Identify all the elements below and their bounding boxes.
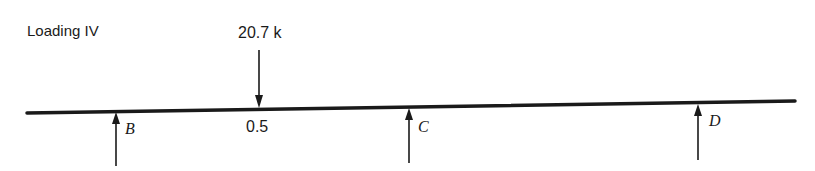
- point-load-value: 20.7 k: [238, 24, 282, 42]
- beam-loading-diagram: Loading IV 20.7 k 0.5 B C D: [0, 0, 815, 171]
- diagram-title: Loading IV: [27, 22, 99, 39]
- point-load-arrow-icon: [255, 50, 263, 108]
- support-label-b: B: [125, 120, 135, 138]
- diagram-graphics: [0, 0, 815, 171]
- reaction-arrow-d-icon: [694, 104, 702, 160]
- reaction-arrow-c-icon: [405, 108, 413, 163]
- beam-line: [27, 101, 795, 113]
- support-label-c: C: [418, 118, 429, 136]
- point-load-position: 0.5: [246, 118, 268, 136]
- reaction-arrow-b-icon: [112, 112, 120, 166]
- support-label-d: D: [709, 112, 721, 130]
